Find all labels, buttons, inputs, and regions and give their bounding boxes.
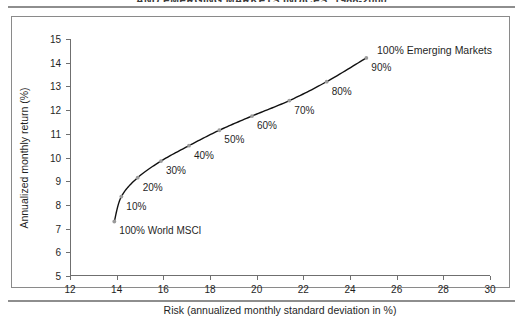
- x-tick-label: 24: [344, 284, 355, 295]
- x-tick-label: 16: [158, 284, 169, 295]
- y-tick-label: 6: [55, 247, 61, 258]
- y-tick-label: 5: [55, 271, 61, 282]
- data-point-marker: [364, 56, 368, 60]
- x-tick-label: 22: [298, 284, 309, 295]
- x-tick-label: 12: [64, 284, 75, 295]
- x-tick-label: 18: [204, 284, 215, 295]
- data-point-label: 60%: [257, 120, 277, 131]
- y-tick-label: 12: [50, 105, 61, 116]
- data-point-marker: [112, 220, 116, 224]
- x-tick: [210, 276, 211, 280]
- y-tick-label: 9: [55, 176, 61, 187]
- x-axis-title: Risk (annualized monthly standard deviat…: [70, 304, 490, 316]
- y-tick-label: 7: [55, 223, 61, 234]
- data-point-label: 30%: [166, 165, 186, 176]
- y-tick-label: 8: [55, 199, 61, 210]
- y-tick-label: 15: [50, 34, 61, 45]
- data-point-marker: [119, 195, 123, 199]
- frontier-curve: [70, 39, 490, 276]
- top-divider-rule: [8, 6, 515, 8]
- data-point-marker: [287, 99, 291, 103]
- x-tick: [303, 276, 304, 280]
- data-point-marker: [187, 144, 191, 148]
- x-tick: [70, 276, 71, 280]
- data-point-label: 80%: [332, 85, 352, 96]
- data-point-label: 50%: [224, 134, 244, 145]
- data-point-marker: [250, 114, 254, 118]
- data-point-label: 40%: [194, 149, 214, 160]
- x-tick-label: 30: [484, 284, 495, 295]
- data-point-label: 70%: [294, 104, 314, 115]
- x-tick-label: 20: [251, 284, 262, 295]
- data-point-marker: [325, 80, 329, 84]
- y-tick: [66, 276, 70, 277]
- y-tick-label: 13: [50, 81, 61, 92]
- x-tick: [443, 276, 444, 280]
- x-tick: [350, 276, 351, 280]
- x-tick: [163, 276, 164, 280]
- x-tick-label: 14: [111, 284, 122, 295]
- data-point-label: 100% World MSCI: [119, 225, 201, 236]
- data-point-marker: [136, 176, 140, 180]
- y-axis-title: Annualized monthly return (%): [18, 87, 30, 228]
- data-point-marker: [217, 128, 221, 132]
- figure-frame: 12141618202224262830 56789101112131415 1…: [11, 16, 510, 288]
- x-tick: [397, 276, 398, 280]
- data-point-label: 10%: [126, 200, 146, 211]
- x-tick-label: 26: [391, 284, 402, 295]
- bottom-divider-rule: [8, 300, 515, 302]
- data-point-label: 20%: [143, 181, 163, 192]
- endpoint-annotation: 100% Emerging Markets: [377, 44, 492, 56]
- x-tick-label: 28: [438, 284, 449, 295]
- figure-title: AND EMERGING MARKETS INDICES, 1988-2000: [0, 0, 523, 2]
- data-point-label: 90%: [371, 61, 391, 72]
- x-tick: [490, 276, 491, 280]
- y-tick-label: 11: [51, 128, 61, 139]
- y-tick-label: 10: [50, 152, 61, 163]
- y-tick-label: 14: [50, 57, 61, 68]
- data-point-marker: [159, 159, 163, 163]
- x-tick: [117, 276, 118, 280]
- plot-area: 12141618202224262830 56789101112131415 1…: [70, 39, 490, 276]
- x-tick: [257, 276, 258, 280]
